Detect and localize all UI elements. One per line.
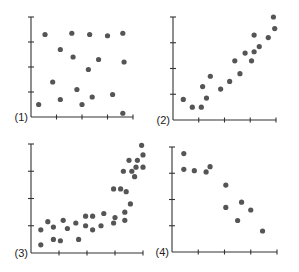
- data-point: [192, 168, 197, 173]
- data-point: [249, 58, 254, 63]
- data-point: [83, 223, 88, 228]
- data-point: [51, 225, 56, 230]
- data-point: [50, 79, 55, 84]
- data-point: [61, 218, 66, 223]
- data-point: [118, 186, 123, 191]
- data-point: [90, 214, 95, 219]
- data-point: [121, 59, 126, 64]
- data-point: [69, 31, 74, 36]
- data-point: [70, 54, 75, 59]
- data-point: [199, 105, 204, 110]
- data-point: [129, 169, 134, 174]
- data-point: [87, 32, 92, 37]
- scatter-panel-3: (3): [15, 143, 146, 259]
- data-point: [90, 227, 95, 232]
- data-point: [223, 182, 228, 187]
- data-point: [207, 164, 212, 169]
- data-point: [120, 31, 125, 36]
- data-point: [135, 158, 140, 163]
- data-point: [79, 102, 84, 107]
- data-point: [181, 97, 186, 102]
- data-point: [74, 87, 79, 92]
- panel-label: (2): [157, 114, 170, 126]
- data-point: [257, 44, 262, 49]
- data-point: [38, 242, 43, 247]
- data-point: [105, 33, 110, 38]
- data-point: [86, 67, 91, 72]
- panel-label: (1): [15, 111, 28, 123]
- data-point: [204, 96, 209, 101]
- data-point: [181, 151, 186, 156]
- data-point: [140, 152, 145, 157]
- data-point: [111, 220, 116, 225]
- data-point: [227, 79, 232, 84]
- scatter-panel-4: (4): [156, 147, 277, 258]
- data-point: [260, 228, 265, 233]
- data-point: [252, 32, 257, 37]
- data-point: [140, 165, 145, 170]
- data-point: [139, 143, 144, 148]
- data-point: [42, 32, 47, 37]
- data-point: [51, 237, 56, 242]
- data-point: [190, 105, 195, 110]
- scatter-panel-1: (1): [15, 17, 133, 123]
- data-point: [120, 111, 125, 116]
- data-point: [128, 201, 133, 206]
- data-point: [122, 218, 127, 223]
- data-point: [223, 205, 228, 210]
- data-point: [208, 74, 213, 79]
- data-point: [58, 238, 63, 243]
- data-point: [271, 14, 276, 19]
- data-point: [243, 50, 248, 55]
- data-point: [218, 87, 223, 92]
- data-point: [96, 57, 101, 62]
- data-point: [133, 165, 138, 170]
- data-point: [132, 174, 137, 179]
- data-point: [73, 220, 78, 225]
- data-point: [121, 169, 126, 174]
- data-point: [232, 58, 237, 63]
- data-point: [36, 102, 41, 107]
- data-point: [204, 169, 209, 174]
- data-point: [266, 35, 271, 40]
- data-point: [58, 97, 63, 102]
- data-point: [58, 47, 63, 52]
- data-point: [126, 158, 131, 163]
- data-point: [45, 219, 50, 224]
- data-point: [181, 167, 186, 172]
- data-point: [65, 226, 70, 231]
- data-point: [110, 92, 115, 97]
- data-point: [83, 214, 88, 219]
- data-point: [90, 94, 95, 99]
- data-point: [124, 189, 129, 194]
- data-point: [76, 237, 81, 242]
- data-point: [111, 186, 116, 191]
- scatter-plot-grid: (1)(2)(3)(4): [0, 0, 299, 272]
- data-point: [252, 49, 257, 54]
- data-point: [38, 227, 43, 232]
- data-point: [237, 71, 242, 76]
- data-point: [112, 215, 117, 220]
- data-point: [200, 84, 205, 89]
- data-point: [235, 218, 240, 223]
- data-point: [101, 211, 106, 216]
- scatter-panel-2: (2): [157, 14, 278, 126]
- data-point: [98, 223, 103, 228]
- data-point: [122, 210, 127, 215]
- panel-label: (3): [15, 247, 28, 259]
- data-point: [248, 207, 253, 212]
- data-point: [272, 26, 277, 31]
- data-point: [239, 200, 244, 205]
- panel-label: (4): [156, 246, 169, 258]
